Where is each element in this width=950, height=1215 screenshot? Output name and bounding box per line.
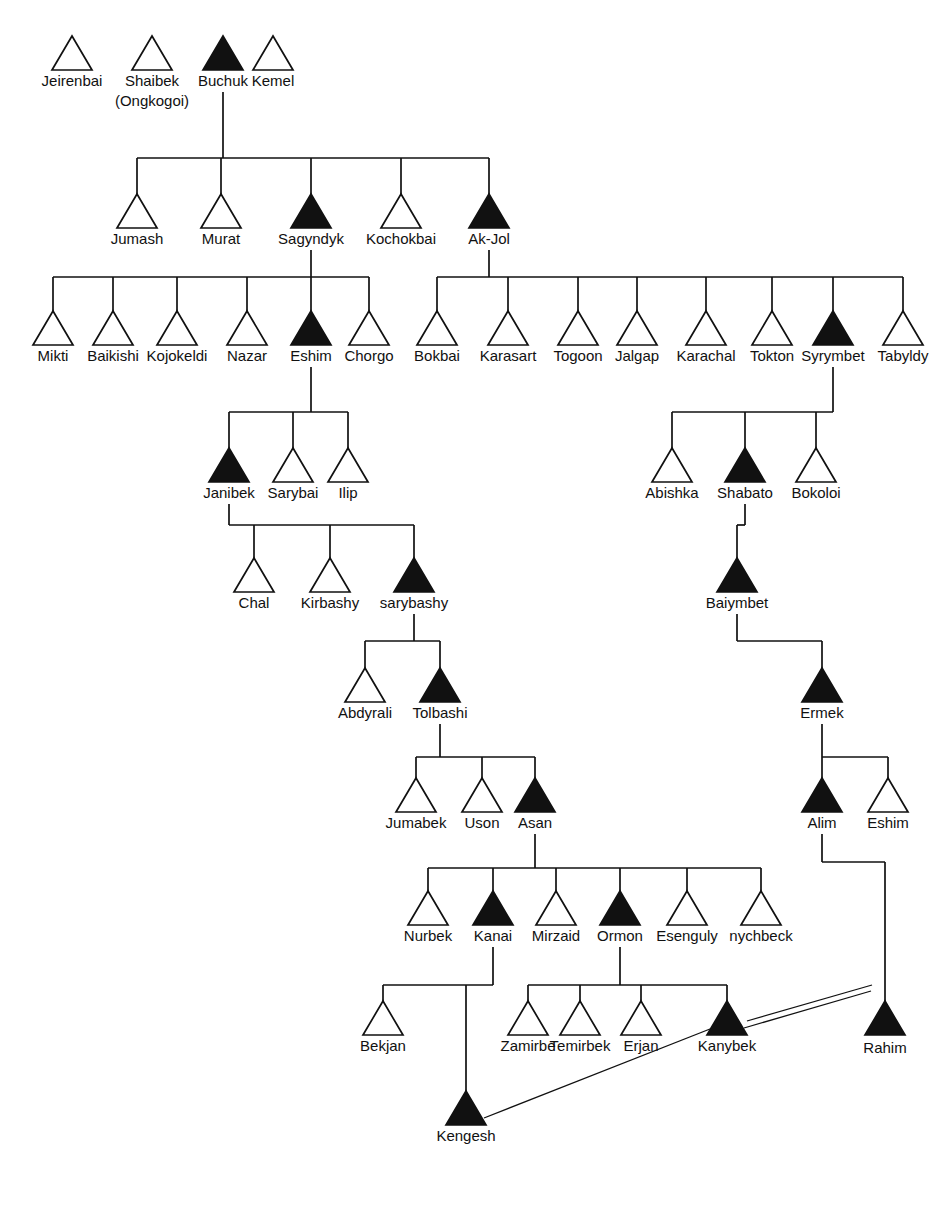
- person-node-sarybashy[interactable]: sarybashy: [380, 558, 449, 611]
- person-node-kirbashy[interactable]: Kirbashy: [301, 558, 360, 611]
- person-node-jumash[interactable]: Jumash: [111, 194, 164, 247]
- filled-triangle-icon[interactable]: [813, 311, 853, 345]
- person-node-zamirbe[interactable]: Zamirbe: [500, 1001, 555, 1054]
- person-node-kochokbai[interactable]: Kochokbai: [366, 194, 436, 247]
- person-node-eshim1[interactable]: Eshim: [290, 311, 332, 364]
- open-triangle-icon[interactable]: [617, 311, 657, 345]
- person-node-jalgap[interactable]: Jalgap: [615, 311, 659, 364]
- filled-triangle-icon[interactable]: [209, 448, 249, 482]
- open-triangle-icon[interactable]: [868, 778, 908, 812]
- open-triangle-icon[interactable]: [396, 778, 436, 812]
- filled-triangle-icon[interactable]: [203, 36, 243, 70]
- person-node-nazar[interactable]: Nazar: [227, 311, 267, 364]
- open-triangle-icon[interactable]: [227, 311, 267, 345]
- filled-triangle-icon[interactable]: [725, 448, 765, 482]
- filled-triangle-icon[interactable]: [291, 194, 331, 228]
- person-node-sarybai[interactable]: Sarybai: [268, 448, 319, 501]
- person-node-kemel[interactable]: Kemel: [252, 36, 295, 89]
- open-triangle-icon[interactable]: [408, 891, 448, 925]
- filled-triangle-icon[interactable]: [707, 1001, 747, 1035]
- filled-triangle-icon[interactable]: [473, 891, 513, 925]
- open-triangle-icon[interactable]: [201, 194, 241, 228]
- person-node-mirzaid[interactable]: Mirzaid: [532, 891, 580, 944]
- person-node-janibek[interactable]: Janibek: [203, 448, 255, 501]
- person-node-mikti[interactable]: Mikti: [33, 311, 73, 364]
- open-triangle-icon[interactable]: [621, 1001, 661, 1035]
- person-node-temirbek[interactable]: Temirbek: [550, 1001, 611, 1054]
- open-triangle-icon[interactable]: [560, 1001, 600, 1035]
- filled-triangle-icon[interactable]: [717, 558, 757, 592]
- open-triangle-icon[interactable]: [686, 311, 726, 345]
- person-node-sagyndyk[interactable]: Sagyndyk: [278, 194, 344, 247]
- open-triangle-icon[interactable]: [883, 311, 923, 345]
- person-node-rahim[interactable]: Rahim: [863, 1001, 906, 1056]
- person-node-karasart[interactable]: Karasart: [480, 311, 538, 364]
- person-node-ormon[interactable]: Ormon: [597, 891, 643, 944]
- person-node-ak-jol[interactable]: Ak-Jol: [468, 194, 510, 247]
- filled-triangle-icon[interactable]: [865, 1001, 905, 1035]
- person-node-kojokeldi[interactable]: Kojokeldi: [147, 311, 208, 364]
- person-node-bokbai[interactable]: Bokbai: [414, 311, 460, 364]
- filled-triangle-icon[interactable]: [469, 194, 509, 228]
- person-node-uson[interactable]: Uson: [462, 778, 502, 831]
- open-triangle-icon[interactable]: [363, 1001, 403, 1035]
- open-triangle-icon[interactable]: [536, 891, 576, 925]
- open-triangle-icon[interactable]: [417, 311, 457, 345]
- open-triangle-icon[interactable]: [157, 311, 197, 345]
- person-node-abdyrali[interactable]: Abdyrali: [338, 668, 392, 721]
- filled-triangle-icon[interactable]: [446, 1091, 486, 1125]
- person-node-shabato[interactable]: Shabato: [717, 448, 773, 501]
- open-triangle-icon[interactable]: [273, 448, 313, 482]
- person-node-chal[interactable]: Chal: [234, 558, 274, 611]
- open-triangle-icon[interactable]: [488, 311, 528, 345]
- person-node-abishka[interactable]: Abishka: [645, 448, 699, 501]
- person-node-baikishi[interactable]: Baikishi: [87, 311, 139, 364]
- person-node-togoon[interactable]: Togoon: [553, 311, 602, 364]
- filled-triangle-icon[interactable]: [394, 558, 434, 592]
- open-triangle-icon[interactable]: [381, 194, 421, 228]
- open-triangle-icon[interactable]: [132, 36, 172, 70]
- filled-triangle-icon[interactable]: [802, 668, 842, 702]
- person-node-asan[interactable]: Asan: [515, 778, 555, 831]
- person-node-tolbashi[interactable]: Tolbashi: [412, 668, 467, 721]
- open-triangle-icon[interactable]: [741, 891, 781, 925]
- open-triangle-icon[interactable]: [253, 36, 293, 70]
- open-triangle-icon[interactable]: [328, 448, 368, 482]
- open-triangle-icon[interactable]: [752, 311, 792, 345]
- open-triangle-icon[interactable]: [652, 448, 692, 482]
- person-node-buchuk[interactable]: Buchuk: [198, 36, 249, 89]
- open-triangle-icon[interactable]: [508, 1001, 548, 1035]
- open-triangle-icon[interactable]: [558, 311, 598, 345]
- person-node-tabyldy[interactable]: Tabyldy: [878, 311, 929, 364]
- person-node-nychbeck[interactable]: nychbeck: [729, 891, 793, 944]
- person-node-jeirenbai[interactable]: Jeirenbai: [42, 36, 103, 89]
- person-node-esenguly[interactable]: Esenguly: [656, 891, 718, 944]
- open-triangle-icon[interactable]: [33, 311, 73, 345]
- open-triangle-icon[interactable]: [310, 558, 350, 592]
- person-node-karachal[interactable]: Karachal: [676, 311, 735, 364]
- open-triangle-icon[interactable]: [796, 448, 836, 482]
- open-triangle-icon[interactable]: [349, 311, 389, 345]
- person-node-eshim2[interactable]: Eshim: [867, 778, 909, 831]
- open-triangle-icon[interactable]: [117, 194, 157, 228]
- person-node-syrymbet[interactable]: Syrymbet: [801, 311, 865, 364]
- open-triangle-icon[interactable]: [93, 311, 133, 345]
- person-node-ilip[interactable]: Ilip: [328, 448, 368, 501]
- person-node-bokoloi[interactable]: Bokoloi: [791, 448, 840, 501]
- open-triangle-icon[interactable]: [345, 668, 385, 702]
- filled-triangle-icon[interactable]: [515, 778, 555, 812]
- person-node-tokton[interactable]: Tokton: [750, 311, 794, 364]
- filled-triangle-icon[interactable]: [291, 311, 331, 345]
- person-node-alim[interactable]: Alim: [802, 778, 842, 831]
- person-node-baiymbet[interactable]: Baiymbet: [706, 558, 769, 611]
- person-node-jumabek[interactable]: Jumabek: [386, 778, 447, 831]
- filled-triangle-icon[interactable]: [600, 891, 640, 925]
- person-node-erjan[interactable]: Erjan: [621, 1001, 661, 1054]
- filled-triangle-icon[interactable]: [802, 778, 842, 812]
- open-triangle-icon[interactable]: [667, 891, 707, 925]
- person-node-shaibek[interactable]: Shaibek(Ongkogoi): [115, 36, 189, 109]
- person-node-ermek[interactable]: Ermek: [800, 668, 844, 721]
- person-node-nurbek[interactable]: Nurbek: [404, 891, 453, 944]
- open-triangle-icon[interactable]: [52, 36, 92, 70]
- person-node-kanai[interactable]: Kanai: [473, 891, 513, 944]
